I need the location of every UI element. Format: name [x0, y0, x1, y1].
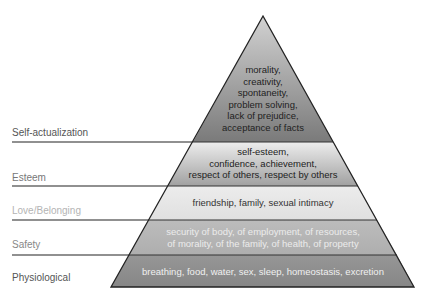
label-esteem: Esteem: [12, 172, 46, 183]
text-safety: security of body, of employment, of reso…: [139, 226, 387, 249]
text-self-actualization: morality, creativity, spontaneity, probl…: [193, 64, 333, 133]
label-love-belonging: Love/Belonging: [12, 205, 81, 216]
text-esteem: self-esteem, confidence, achievement, re…: [178, 146, 348, 181]
label-self-actualization: Self-actualization: [12, 127, 88, 138]
text-physiological: breathing, food, water, sex, sleep, home…: [120, 266, 406, 278]
text-love-belonging: friendship, family, sexual intimacy: [163, 197, 363, 209]
label-physiological: Physiological: [12, 272, 70, 283]
label-safety: Safety: [12, 239, 40, 250]
